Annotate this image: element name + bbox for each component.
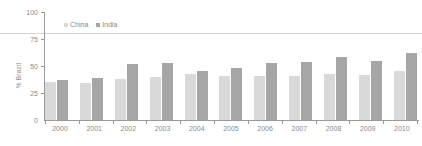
bar-india-2003[interactable] xyxy=(162,63,173,120)
bar-india-2001[interactable] xyxy=(92,78,103,120)
bar-china-2003[interactable] xyxy=(150,77,161,120)
x-tickmark xyxy=(316,121,317,124)
x-tick-label-2006: 2006 xyxy=(250,125,280,132)
bar-china-2000[interactable] xyxy=(45,82,56,120)
y-tick-25: 25 xyxy=(14,90,38,97)
bar-india-2010[interactable] xyxy=(406,53,417,120)
x-tickmark xyxy=(79,121,80,124)
bar-group xyxy=(150,12,173,120)
x-tick-label-2001: 2001 xyxy=(79,125,109,132)
plot-area xyxy=(45,12,417,120)
x-tickmark xyxy=(113,121,114,124)
bar-group xyxy=(185,12,208,120)
bar-group xyxy=(45,12,68,120)
x-tickmark xyxy=(180,121,181,124)
bar-china-2004[interactable] xyxy=(185,74,196,120)
x-tick-label-2005: 2005 xyxy=(216,125,246,132)
x-tickmark xyxy=(214,121,215,124)
bar-china-2007[interactable] xyxy=(289,76,300,120)
x-tick-label-2003: 2003 xyxy=(148,125,178,132)
bar-group xyxy=(80,12,103,120)
bar-group xyxy=(115,12,138,120)
bar-china-2008[interactable] xyxy=(324,74,335,120)
bar-group xyxy=(324,12,347,120)
bar-india-2007[interactable] xyxy=(301,62,312,120)
bar-group xyxy=(394,12,417,120)
x-tickmark xyxy=(282,121,283,124)
x-axis-labels: 2000200120022003200420052006200720082009… xyxy=(45,125,417,132)
bar-india-2008[interactable] xyxy=(336,57,347,120)
x-tick-label-2007: 2007 xyxy=(284,125,314,132)
bar-india-2004[interactable] xyxy=(197,71,208,120)
bar-india-2000[interactable] xyxy=(57,80,68,120)
x-axis-line xyxy=(45,120,419,121)
x-tickmark xyxy=(383,121,384,124)
bar-china-2002[interactable] xyxy=(115,79,126,120)
chart-container: % Brazil 100 75 50 25 0 China India 2000… xyxy=(0,0,422,146)
x-tick-label-2004: 2004 xyxy=(182,125,212,132)
y-tick-100: 100 xyxy=(14,9,38,16)
x-tick-label-2008: 2008 xyxy=(319,125,349,132)
bar-group xyxy=(359,12,382,120)
bar-group xyxy=(289,12,312,120)
bar-china-2009[interactable] xyxy=(359,75,370,120)
y-tick-0: 0 xyxy=(14,117,38,124)
bar-india-2006[interactable] xyxy=(266,63,277,120)
bar-group xyxy=(219,12,242,120)
x-tickmark xyxy=(417,121,418,124)
bar-china-2006[interactable] xyxy=(254,76,265,120)
bar-india-2002[interactable] xyxy=(127,64,138,120)
y-tick-75: 75 xyxy=(14,36,38,43)
bar-india-2005[interactable] xyxy=(231,68,242,120)
x-tick-label-2010: 2010 xyxy=(387,125,417,132)
x-tickmark xyxy=(349,121,350,124)
bar-india-2009[interactable] xyxy=(371,61,382,120)
bar-groups xyxy=(45,12,417,120)
bar-group xyxy=(254,12,277,120)
x-tickmark xyxy=(248,121,249,124)
x-tickmark xyxy=(146,121,147,124)
x-tick-label-2000: 2000 xyxy=(45,125,75,132)
x-tick-label-2009: 2009 xyxy=(353,125,383,132)
y-tick-50: 50 xyxy=(14,63,38,70)
bar-china-2005[interactable] xyxy=(219,76,230,120)
bar-china-2010[interactable] xyxy=(394,71,405,120)
x-tickmark xyxy=(45,121,46,124)
bar-china-2001[interactable] xyxy=(80,83,91,120)
x-tick-label-2002: 2002 xyxy=(113,125,143,132)
